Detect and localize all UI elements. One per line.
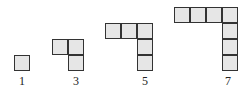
square-cell <box>222 7 238 23</box>
shape-label: 7 <box>218 75 238 87</box>
square-cell <box>222 23 238 39</box>
square-cell <box>174 7 190 23</box>
square-cell <box>68 39 84 55</box>
square-cell <box>121 23 137 39</box>
square-cell <box>137 55 153 71</box>
square-cell <box>68 55 84 71</box>
square-cell <box>14 55 30 71</box>
shape-label: 5 <box>135 75 155 87</box>
square-cell <box>190 7 206 23</box>
square-cell <box>105 23 121 39</box>
square-cell <box>137 39 153 55</box>
shape-label: 3 <box>66 75 86 87</box>
square-cell <box>52 39 68 55</box>
square-cell <box>137 23 153 39</box>
square-cell <box>222 39 238 55</box>
square-cell <box>222 55 238 71</box>
shape-label: 1 <box>12 75 32 87</box>
square-cell <box>206 7 222 23</box>
